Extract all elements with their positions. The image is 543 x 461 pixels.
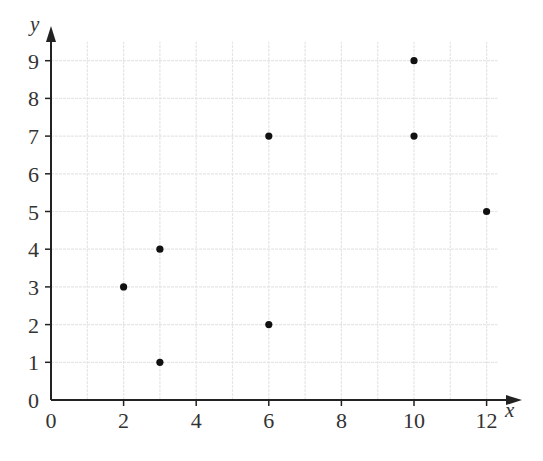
data-point — [410, 133, 417, 140]
y-tick-label: 2 — [28, 313, 39, 338]
x-tick-label: 10 — [403, 408, 425, 433]
data-point — [156, 246, 163, 253]
data-point — [156, 359, 163, 366]
scatter-chart: 0246810120123456789 x y — [0, 0, 543, 461]
data-point — [410, 57, 417, 64]
data-point — [265, 133, 272, 140]
y-tick-label: 9 — [28, 49, 39, 74]
x-tick-label: 2 — [118, 408, 129, 433]
grid-lines — [51, 42, 497, 400]
y-tick-label: 6 — [28, 162, 39, 187]
y-tick-label: 1 — [28, 350, 39, 375]
data-point — [120, 283, 127, 290]
y-axis-label: y — [28, 12, 40, 36]
x-tick-label: 4 — [191, 408, 202, 433]
y-tick-label: 0 — [28, 388, 39, 413]
x-tick-label: 0 — [46, 408, 57, 433]
y-tick-label: 8 — [28, 86, 39, 111]
y-tick-label: 7 — [28, 124, 39, 149]
x-tick-label: 6 — [263, 408, 274, 433]
x-axis-label: x — [504, 398, 515, 422]
y-axis-arrow-icon — [46, 26, 56, 42]
data-point — [265, 321, 272, 328]
data-point — [483, 208, 490, 215]
y-tick-label: 5 — [28, 200, 39, 225]
y-tick-label: 3 — [28, 275, 39, 300]
y-tick-label: 4 — [28, 237, 39, 262]
tick-labels: 0246810120123456789 — [28, 49, 498, 433]
x-tick-label: 12 — [476, 408, 498, 433]
x-tick-label: 8 — [336, 408, 347, 433]
